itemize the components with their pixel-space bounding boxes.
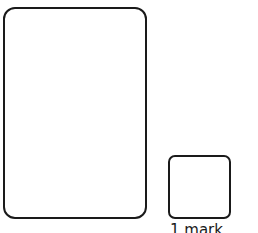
marks-label: 1 mark — [170, 221, 223, 233]
large-answer-box[interactable] — [3, 7, 147, 219]
mark-box[interactable] — [168, 155, 231, 219]
